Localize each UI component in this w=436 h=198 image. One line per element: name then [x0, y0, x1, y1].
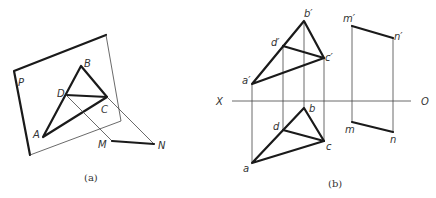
axis-label-o: O: [421, 96, 429, 107]
caption-a: (a): [84, 172, 98, 183]
label-d: D: [57, 88, 65, 99]
label-a: A: [32, 129, 40, 140]
label-n: N: [158, 140, 166, 151]
line-mn-top: [352, 122, 393, 132]
figure-b: X O b′ d′ c′ a′ m′ n′ b d c a m n (b): [215, 8, 429, 189]
triangle-top-view: [252, 108, 324, 163]
diagram-canvas: P B D C A M N (a) X O b′ d′ c′ a′ m′ n: [0, 0, 436, 198]
label-m-top: m: [345, 124, 355, 135]
label-b: B: [84, 58, 91, 69]
label-a-prime: a′: [242, 75, 251, 86]
label-c-top: c: [326, 141, 332, 152]
label-n-prime: n′: [394, 31, 403, 42]
label-plane-p: P: [18, 77, 25, 88]
label-m: M: [98, 139, 107, 150]
label-d-prime: d′: [271, 37, 280, 48]
line-cn: [107, 97, 154, 144]
label-b-prime: b′: [304, 8, 313, 19]
label-c: C: [101, 104, 108, 115]
label-c-prime: c′: [325, 52, 333, 63]
line-m-prime-n-prime: [352, 26, 393, 38]
figure-a: P B D C A M N (a): [14, 35, 166, 183]
label-n-top: n: [390, 134, 396, 145]
label-b-top: b: [309, 103, 315, 114]
label-d-top: d: [273, 121, 280, 132]
triangle-front-view: [252, 21, 324, 84]
axis-label-x: X: [215, 96, 224, 107]
line-dc: [66, 95, 107, 97]
line-mn: [112, 141, 154, 144]
caption-b: (b): [328, 178, 342, 189]
label-m-prime: m′: [343, 13, 356, 24]
label-a-top: a: [243, 163, 249, 174]
